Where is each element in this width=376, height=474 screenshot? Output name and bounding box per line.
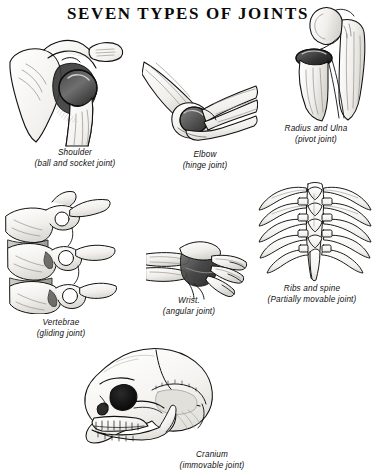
figure-ribs-spine [258,182,372,282]
figure-label-wrist: Wrist. [136,296,242,307]
ribs-spine-joint-illustration [258,182,372,282]
figure-radius-ulna [292,4,374,122]
figure-jointtype-ribs-spine: (Partially movable joint) [248,295,376,306]
figure-label-vertebrae: Vertebrae [2,318,120,329]
figure-vertebrae [0,186,118,314]
figure-cranium [70,344,220,450]
figure-jointtype-elbow: (hinge joint) [150,161,260,172]
caption-radius-ulna: Radius and Ulna (pivot joint) [256,124,376,145]
figure-jointtype-radius-ulna: (pivot joint) [256,135,376,146]
figure-jointtype-cranium: (immovable joint) [152,461,272,472]
caption-elbow: Elbow (hinge joint) [150,150,260,171]
figure-jointtype-vertebrae: (gliding joint) [2,329,120,340]
cranium-joint-illustration [70,344,220,450]
figure-jointtype-shoulder: (ball and socket joint) [0,159,150,170]
vertebrae-joint-illustration [0,186,118,314]
caption-ribs-spine: Ribs and spine (Partially movable joint) [248,284,376,305]
radius-ulna-joint-illustration [292,4,374,122]
caption-shoulder: Shoulder (ball and socket joint) [0,148,150,169]
shoulder-joint-illustration [4,26,126,148]
figure-wrist [146,238,250,300]
elbow-joint-illustration [142,52,258,146]
figure-label-elbow: Elbow [150,150,260,161]
wrist-joint-illustration [146,238,250,300]
figure-jointtype-wrist: (angular joint) [136,307,242,318]
caption-cranium: Cranium (immovable joint) [152,450,272,471]
figure-label-shoulder: Shoulder [0,148,150,159]
figure-label-ribs-spine: Ribs and spine [248,284,376,295]
caption-wrist: Wrist. (angular joint) [136,296,242,317]
caption-vertebrae: Vertebrae (gliding joint) [2,318,120,339]
figure-label-cranium: Cranium [152,450,272,461]
figure-shoulder [4,26,126,148]
figure-elbow [142,52,258,146]
figure-label-radius-ulna: Radius and Ulna [256,124,376,135]
